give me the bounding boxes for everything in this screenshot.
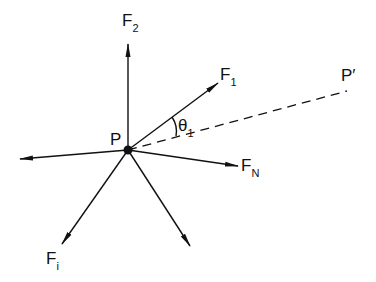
- label-fi-sub: i: [56, 260, 58, 272]
- force-fn-arrow: [128, 150, 238, 166]
- point-p-dot: [124, 146, 133, 155]
- label-point-p-text: P: [110, 130, 121, 149]
- label-f1-sub: 1: [230, 76, 236, 88]
- label-f1: F1: [220, 66, 237, 83]
- angle-arc-theta1: [172, 117, 177, 136]
- label-f2: F2: [122, 12, 139, 29]
- label-point-p-prime-text: P′: [341, 66, 356, 85]
- label-f2-sub: 2: [132, 22, 138, 34]
- force-diagram: [0, 0, 376, 282]
- label-theta1: θ1: [178, 117, 194, 134]
- label-point-p: P: [110, 131, 121, 148]
- label-point-p-prime: P′: [341, 67, 356, 84]
- label-theta1-sub: 1: [187, 127, 193, 139]
- dashed-line-p-to-p-prime: [128, 91, 347, 150]
- force-fi-arrow: [62, 150, 128, 244]
- label-fn-sub: N: [251, 167, 259, 179]
- force-f1-arrow: [128, 83, 218, 150]
- force-down-arrow: [128, 150, 190, 246]
- label-f2-main: F: [122, 11, 132, 30]
- label-fn: FN: [241, 157, 259, 174]
- label-fi: Fi: [46, 250, 59, 267]
- label-f1-main: F: [220, 65, 230, 84]
- label-fi-main: F: [46, 249, 56, 268]
- force-left-arrow: [20, 150, 128, 159]
- label-fn-main: F: [241, 156, 251, 175]
